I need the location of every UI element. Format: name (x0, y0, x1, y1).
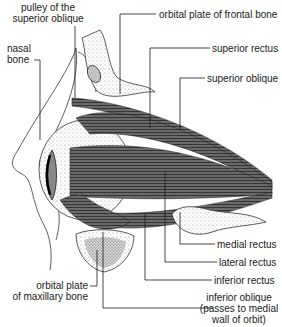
muscles (60, 98, 272, 229)
label-nasal-bone: nasal bone (7, 43, 31, 65)
label-inferior-oblique-line3: wall of orbit) (196, 314, 282, 325)
label-maxillary-line2: of maxillary bone (0, 291, 88, 302)
label-pulley-line2: superior oblique (8, 13, 88, 24)
label-nasal-line1: nasal (7, 43, 31, 54)
label-maxillary-plate: orbital plate of maxillary bone (0, 280, 88, 302)
frontal-bone-section (82, 30, 155, 96)
label-superior-rectus: superior rectus (212, 43, 278, 54)
label-frontal-plate: orbital plate of frontal bone (159, 9, 277, 20)
label-superior-oblique: superior oblique (207, 73, 278, 84)
label-inferior-rectus: inferior rectus (214, 275, 275, 286)
label-maxillary-line1: orbital plate (0, 280, 88, 291)
label-pulley: pulley of the superior oblique (8, 2, 88, 24)
label-inferior-oblique-line2: (passes to medial (196, 303, 282, 314)
label-inferior-oblique-line1: inferior oblique (196, 292, 282, 303)
maxillary-bone-section (76, 230, 134, 272)
label-medial-rectus: medial rectus (217, 239, 276, 250)
label-pulley-line1: pulley of the (8, 2, 88, 13)
label-nasal-line2: bone (7, 54, 31, 65)
label-lateral-rectus: lateral rectus (219, 257, 276, 268)
lateral-rectus-muscle (70, 145, 272, 198)
label-inferior-oblique: inferior oblique (passes to medial wall … (196, 292, 282, 325)
